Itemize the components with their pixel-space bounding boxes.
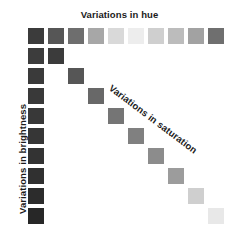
saturation-swatch-3 xyxy=(88,88,104,104)
saturation-swatch-5 xyxy=(128,128,144,144)
saturation-swatch-diagonal xyxy=(0,0,239,251)
saturation-swatch-1 xyxy=(48,48,64,64)
saturation-swatch-2 xyxy=(68,68,84,84)
color-variation-figure: Variations in hue Variations in brightne… xyxy=(0,0,239,251)
saturation-swatch-7 xyxy=(168,168,184,184)
saturation-swatch-6 xyxy=(148,148,164,164)
saturation-swatch-9 xyxy=(208,208,224,224)
saturation-swatch-8 xyxy=(188,188,204,204)
saturation-swatch-4 xyxy=(108,108,124,124)
